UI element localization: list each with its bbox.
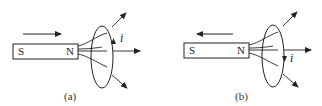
field-arrow-up (283, 12, 297, 26)
panel-a: S N i (a) (13, 13, 140, 103)
north-pole-label: N (66, 45, 74, 57)
field-arrow-down (112, 75, 127, 88)
field-line (249, 53, 278, 66)
field-line (249, 46, 273, 48)
south-pole-label: S (189, 44, 195, 56)
faraday-induction-diagram: S N i (a) S N i (b) (0, 0, 322, 106)
field-arrow-down (283, 74, 298, 87)
south-pole-label: S (18, 45, 24, 57)
caption-a: (a) (64, 90, 77, 103)
field-arrow-up (112, 13, 126, 27)
current-label: i (290, 51, 293, 65)
caption-b: (b) (235, 90, 248, 103)
current-arrow-down (282, 56, 287, 62)
field-line (78, 47, 102, 49)
north-pole-label: N (237, 44, 245, 56)
panel-b: S N i (b) (184, 12, 311, 103)
current-label: i (120, 31, 123, 45)
field-line (78, 54, 107, 67)
